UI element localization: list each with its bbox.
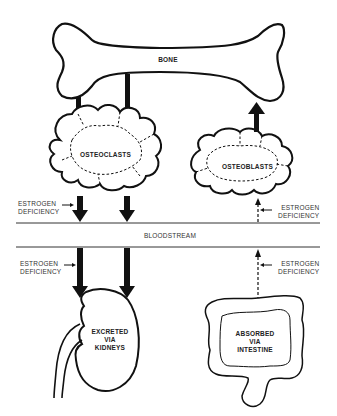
osteoblasts-cloud	[191, 129, 292, 195]
bone-to-osteoclasts-line-right	[125, 74, 130, 109]
kidneys-label-line-1: EXCRETED	[90, 328, 130, 336]
estrogen-pointer-right-lower-head	[260, 263, 264, 267]
estrogen-pointer-left-lower-head	[72, 263, 76, 267]
estrogen-label-line-1: ESTROGEN	[20, 260, 61, 268]
kidneys-label-line-2: VIA	[90, 336, 130, 344]
blood-to-osteoblasts-arrowhead	[255, 198, 261, 205]
estrogen-label-line-1: ESTROGEN	[278, 260, 319, 268]
osteoclasts-cloud	[50, 105, 161, 190]
estrogen-label-line-2: DEFICIENCY	[278, 212, 319, 220]
estrogen-label-line-1: ESTROGEN	[18, 200, 59, 208]
estrogen-pointer-left-upper-head	[70, 203, 74, 207]
blood-to-kidney-shaft-left	[77, 248, 83, 288]
intestine-label-line-2: VIA	[233, 338, 277, 346]
osteoblasts-to-bone-shaft	[254, 112, 259, 132]
estrogen-label-line-2: DEFICIENCY	[18, 208, 59, 216]
estrogen-label-line-2: DEFICIENCY	[278, 268, 319, 276]
osteoclasts-to-blood-arrowhead-right	[119, 210, 135, 222]
estrogen-deficiency-left-lower: ESTROGEN DEFICIENCY	[20, 260, 61, 276]
estrogen-deficiency-left-upper: ESTROGEN DEFICIENCY	[18, 200, 59, 216]
osteoblasts-label: OSTEOBLASTS	[222, 163, 272, 171]
kidneys-label: EXCRETED VIA KIDNEYS	[90, 328, 130, 352]
intestine-to-blood-arrowhead	[255, 249, 261, 257]
osteoclasts-to-blood-arrowhead-left	[72, 210, 88, 222]
intestine-label: ABSORBED VIA INTESTINE	[233, 330, 277, 354]
estrogen-pointer-right-upper-head	[260, 208, 264, 212]
osteoclasts-to-blood-shaft-left	[77, 196, 83, 212]
bloodstream-label: BLOODSTREAM	[140, 232, 200, 240]
intestine-label-line-1: ABSORBED	[233, 330, 277, 338]
estrogen-label-line-2: DEFICIENCY	[20, 268, 61, 276]
kidneys-label-line-3: KIDNEYS	[90, 344, 130, 352]
intestine-label-line-3: INTESTINE	[233, 346, 277, 354]
bone-label: BONE	[150, 56, 186, 64]
estrogen-label-line-1: ESTROGEN	[278, 204, 319, 212]
estrogen-deficiency-right-lower: ESTROGEN DEFICIENCY	[278, 260, 319, 276]
estrogen-deficiency-right-upper: ESTROGEN DEFICIENCY	[278, 204, 319, 220]
blood-to-kidney-shaft-right	[124, 248, 130, 288]
osteoclasts-label: OSTEOCLASTS	[80, 151, 130, 159]
osteoclasts-to-blood-shaft-right	[124, 196, 130, 212]
osteoblasts-to-bone-arrowhead	[248, 102, 265, 114]
